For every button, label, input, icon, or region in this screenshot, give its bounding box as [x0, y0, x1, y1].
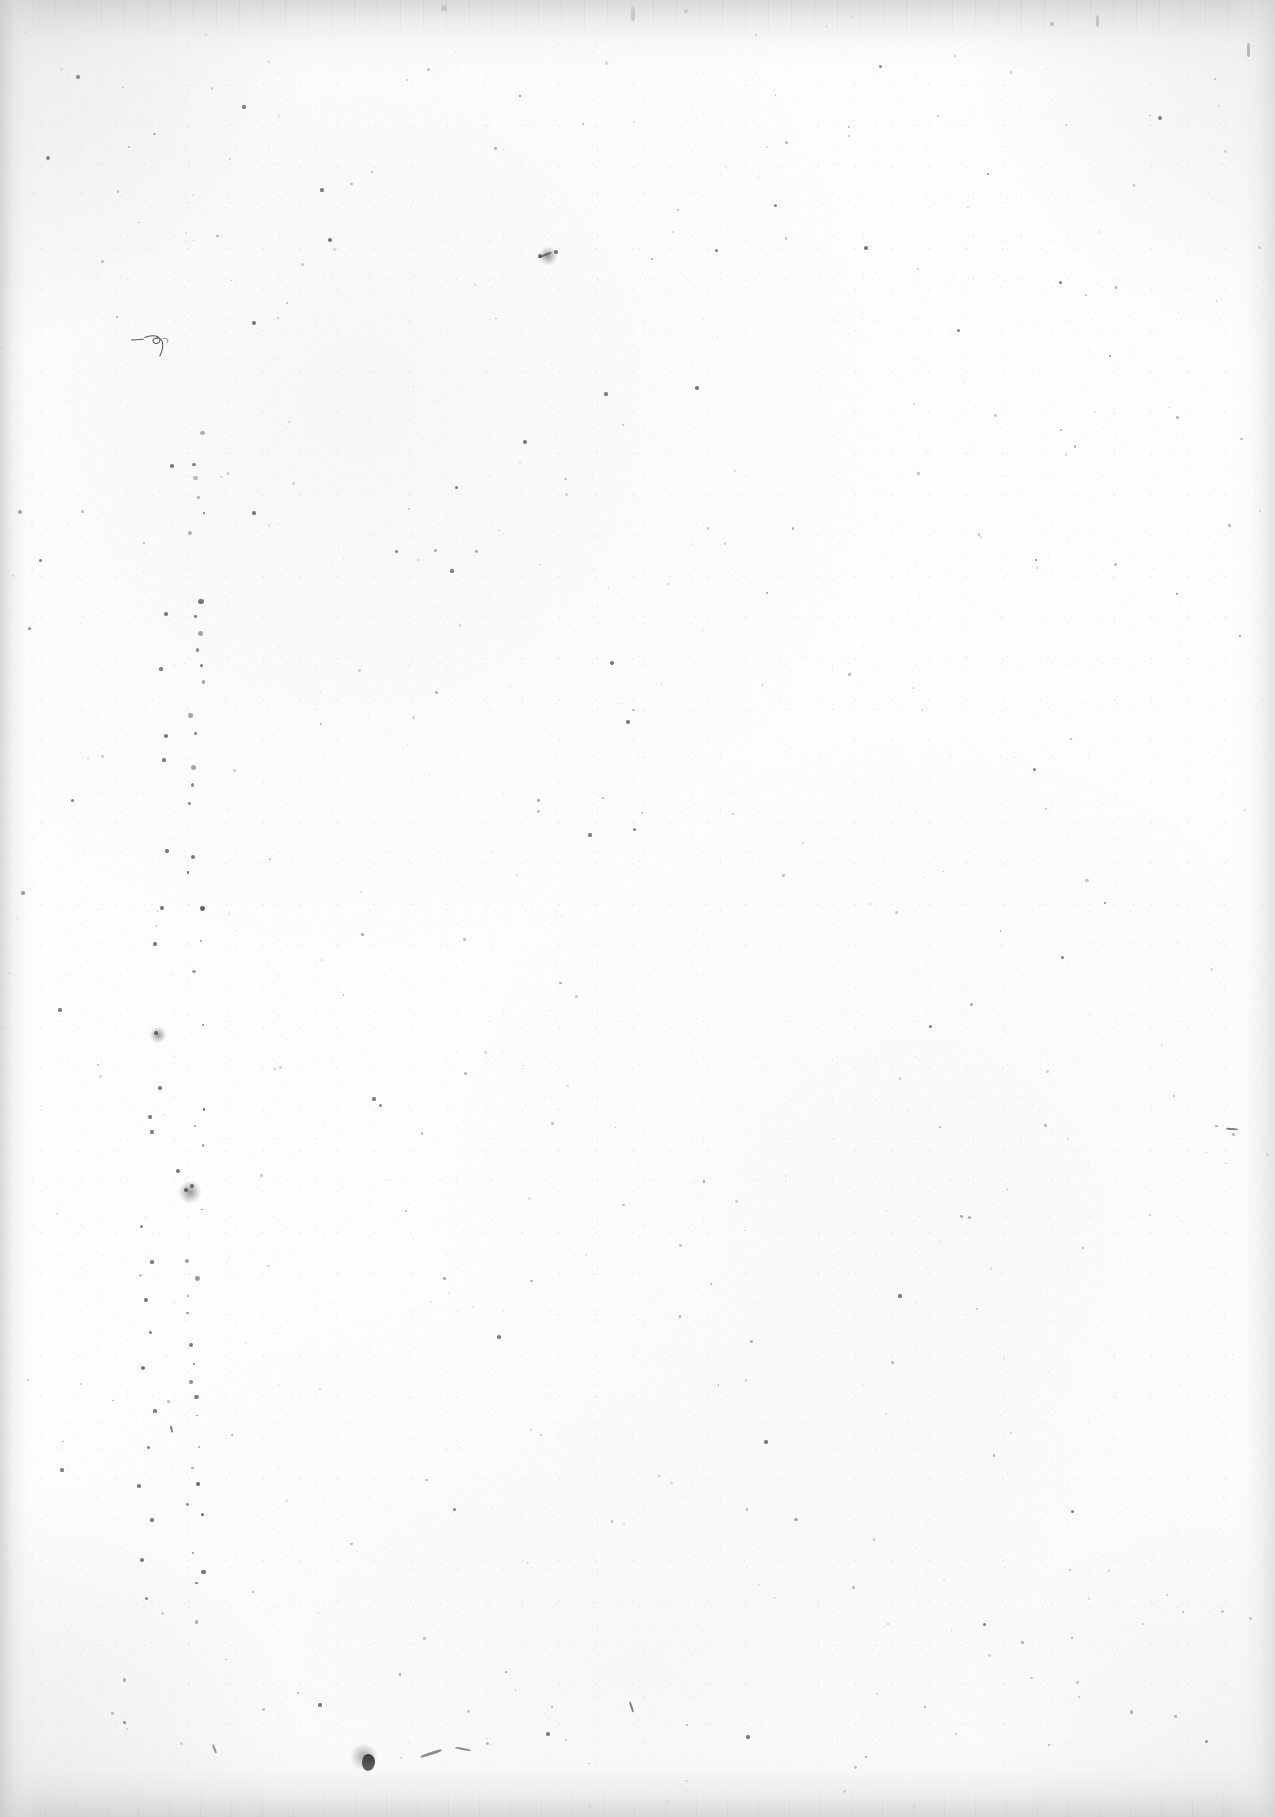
content-area [150, 150, 1125, 1657]
pencil-squiggle [128, 330, 190, 360]
scanned-page [0, 0, 1275, 1817]
